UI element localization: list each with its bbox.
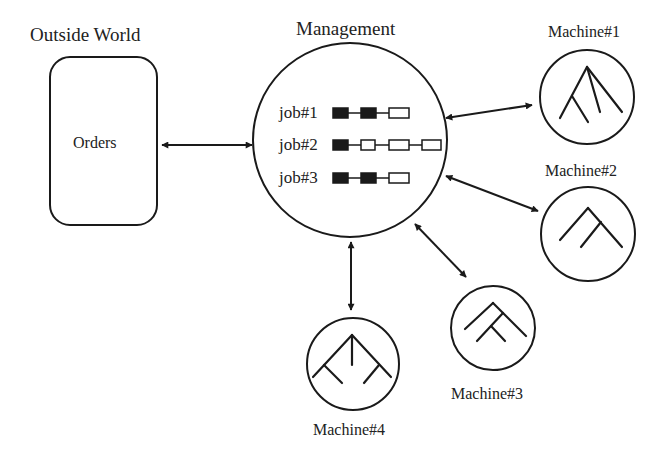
machine-1-circle: [540, 50, 634, 144]
job-2-ops: [333, 140, 441, 150]
job-1-label: job#1: [279, 103, 318, 123]
management-title: Management: [296, 18, 395, 40]
op-done: [361, 108, 376, 118]
diagram-canvas: [0, 0, 666, 458]
tree-icon-nested-chevron: [560, 208, 622, 247]
arrow-management-machine-1: [446, 105, 532, 118]
machine-4-label: Machine#4: [313, 421, 385, 439]
tree-icon-nested-chevron-small: [465, 303, 526, 341]
op-pending: [389, 140, 409, 150]
job-3-label: job#3: [279, 168, 318, 188]
job-3-ops: [333, 173, 409, 183]
op-pending: [389, 108, 409, 118]
machine-1-label: Machine#1: [548, 23, 620, 41]
machine-2-label: Machine#2: [545, 162, 617, 180]
op-done: [361, 173, 376, 183]
op-done: [333, 108, 348, 118]
job-1-ops: [333, 108, 409, 118]
op-pending: [422, 140, 441, 150]
arrow-management-machine-3: [415, 224, 466, 277]
op-done: [333, 140, 348, 150]
machine-2-circle: [541, 187, 635, 281]
tree-icon-three-branch: [560, 67, 622, 122]
op-done: [333, 173, 348, 183]
machine-3-label: Machine#3: [451, 385, 523, 403]
arrow-management-machine-2: [446, 176, 538, 211]
op-pending: [389, 173, 409, 183]
orders-label: Orders: [73, 134, 117, 152]
outside-world-title: Outside World: [30, 24, 141, 46]
tree-icon-double-branch: [313, 335, 391, 383]
job-2-label: job#2: [279, 135, 318, 155]
op-pending: [361, 140, 375, 150]
